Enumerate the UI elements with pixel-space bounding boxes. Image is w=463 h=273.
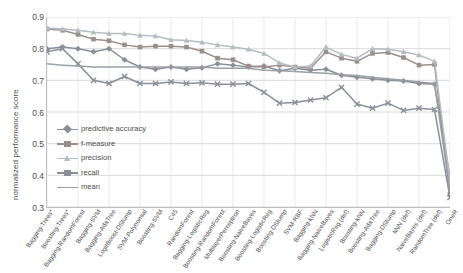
legend-swatch-line-icon	[57, 183, 78, 192]
y-axis-tick: 0.3	[18, 203, 44, 213]
data-point-marker	[230, 62, 236, 68]
x-axis-tick: RandomForest	[136, 208, 195, 273]
x-axis-tick: LogisticReg (def)	[291, 208, 350, 273]
x-axis-tick: Bagging-AdaTree	[58, 208, 117, 273]
data-point-marker	[215, 61, 221, 67]
x-axis-tick: MultilayerPerceptron	[182, 208, 241, 273]
x-axis-tick: RandomTree (def)	[384, 208, 443, 273]
data-point-marker	[262, 65, 267, 70]
y-axis-tick: 0.7	[18, 76, 44, 86]
data-point-marker	[370, 51, 375, 56]
data-point-marker	[200, 49, 205, 54]
x-axis-tick: Bagging-kNN	[260, 208, 319, 273]
y-axis-tick: 0.9	[18, 12, 44, 22]
legend-swatch-diamond-icon	[57, 125, 78, 134]
y-axis-tick: 0.4	[18, 171, 44, 181]
x-axis-tick: Boosting-LogisticReg	[213, 208, 272, 273]
x-axis-tick: Bagging-DStump	[338, 208, 397, 273]
legend-label: recall	[81, 169, 99, 177]
data-point-marker	[417, 63, 422, 68]
legend-item-predictive-accuracy[interactable]: predictive accuracy	[57, 122, 187, 137]
x-axis-tick: SVM-RBF	[244, 208, 303, 273]
x-axis-tick: Boosting-RandomForest	[167, 208, 226, 273]
legend-swatch-triangle-icon	[57, 154, 78, 163]
data-point-marker	[138, 45, 143, 50]
x-axis-tick: C45	[120, 208, 179, 273]
x-axis-tick: NaiveBayes (def)	[369, 208, 428, 273]
x-axis-tick: kNN (def)	[353, 208, 412, 273]
data-point-marker	[401, 55, 406, 60]
data-point-marker	[91, 37, 96, 42]
x-axis-tick: Boosting-AdaTree	[322, 208, 381, 273]
data-point-marker	[91, 49, 97, 55]
data-point-marker	[107, 38, 112, 43]
legend-item-f-measure[interactable]: f-measure	[57, 137, 187, 152]
data-point-marker	[231, 57, 236, 62]
y-axis-tick: 0.8	[18, 44, 44, 54]
x-axis-tick: SVM-Polynomial	[89, 208, 148, 273]
chart-container: normalized performance score 0.30.40.50.…	[0, 0, 463, 273]
x-axis-tick-labels: Bagging-Trees*Boosting-Trees*Bagging-Ran…	[46, 208, 463, 273]
data-point-marker	[75, 46, 81, 52]
legend-swatch-x-icon	[57, 168, 78, 177]
data-point-marker	[76, 32, 81, 37]
x-axis-tick: OneR	[400, 208, 459, 273]
data-point-marker	[215, 56, 220, 61]
legend-label: f-measure	[81, 140, 115, 148]
data-point-marker	[122, 43, 127, 48]
legend-label: predictive accuracy	[81, 125, 146, 133]
x-axis-tick: Bagging-SVM	[43, 208, 102, 273]
legend-item-precision[interactable]: precision	[57, 151, 187, 166]
data-point-marker	[184, 45, 189, 50]
x-axis-tick: Boosting-SVM	[105, 208, 164, 273]
data-point-marker	[323, 44, 329, 49]
data-point-marker	[153, 44, 158, 49]
legend-item-recall[interactable]: recall	[57, 166, 187, 181]
legend-swatch-square-icon	[57, 139, 78, 148]
data-point-marker	[169, 44, 174, 49]
data-point-marker	[339, 85, 344, 90]
y-axis-tick: 0.5	[18, 139, 44, 149]
x-axis-tick: Bagging-NaiveBayes	[276, 208, 335, 273]
y-axis-tick-labels: 0.30.40.50.60.70.80.9	[14, 0, 44, 273]
x-axis-tick: Boosting-DStump	[229, 208, 288, 273]
legend-label: mean	[81, 183, 100, 191]
legend-item-mean[interactable]: mean	[57, 180, 187, 195]
data-point-marker	[323, 66, 329, 72]
x-axis-tick: Boosting-kNN	[307, 208, 366, 273]
x-axis-tick: Bagging-LogisticReg	[151, 208, 210, 273]
data-point-marker	[261, 90, 266, 95]
chart-legend: predictive accuracyf-measureprecisionrec…	[57, 122, 187, 195]
legend-label: precision	[81, 154, 111, 162]
x-axis-tick: Boosting-NaiveBayes	[198, 208, 257, 273]
y-axis-tick: 0.6	[18, 108, 44, 118]
x-axis-tick: LogitBoost-DStump	[74, 208, 133, 273]
